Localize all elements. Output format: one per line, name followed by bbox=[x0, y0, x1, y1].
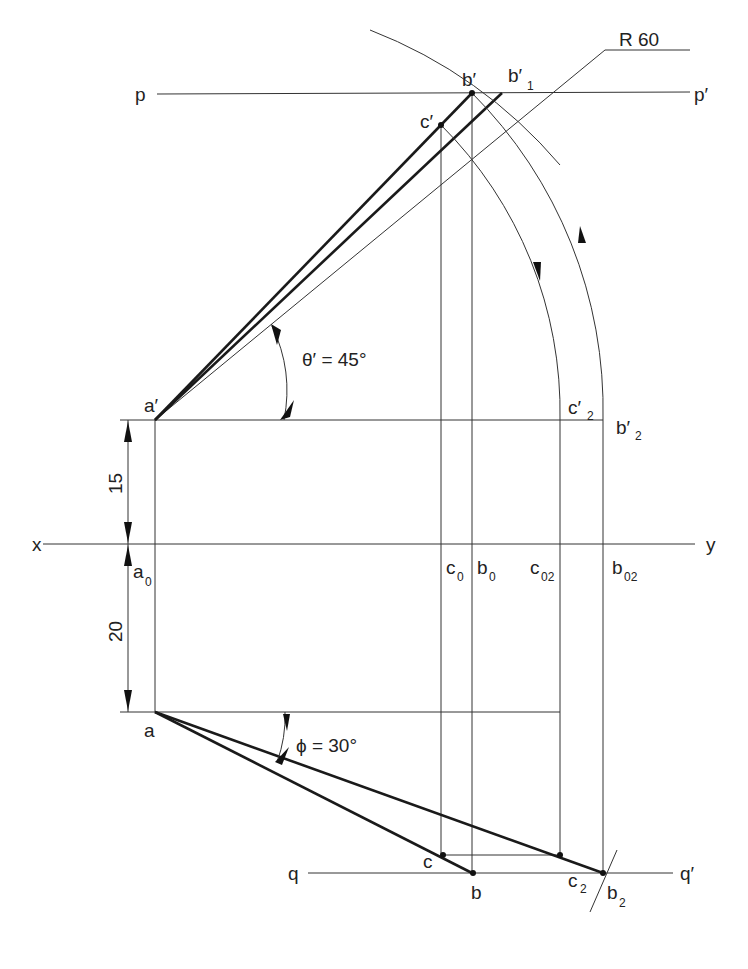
label-c: c bbox=[423, 851, 433, 872]
label-a-prime: a′ bbox=[144, 395, 159, 416]
arc-r60 bbox=[370, 30, 560, 165]
label-c0: c bbox=[446, 557, 456, 578]
line-a-b2 bbox=[155, 712, 603, 873]
line-a-prime-b-prime bbox=[155, 93, 472, 420]
label-q: q bbox=[288, 863, 299, 884]
label-c-prime: c′ bbox=[420, 111, 434, 132]
point-b-prime bbox=[469, 90, 475, 96]
label-b-prime: b′ bbox=[462, 69, 477, 90]
label-r60: R 60 bbox=[619, 29, 659, 50]
point-c bbox=[440, 852, 446, 858]
point-b bbox=[470, 870, 476, 876]
label-x: x bbox=[32, 534, 42, 555]
dim-15-arrow-top bbox=[124, 421, 132, 442]
theta-arc bbox=[272, 326, 287, 420]
projection-diagram: p p′ q q′ x y b′ b′ 1 c′ R 60 θ′ = 45° a… bbox=[0, 0, 748, 969]
pp-line bbox=[157, 92, 690, 94]
label-phi: ϕ = 30° bbox=[296, 735, 357, 756]
label-c2-sub: 2 bbox=[580, 882, 587, 896]
label-c02: c bbox=[530, 557, 540, 578]
arc-b-arrow bbox=[578, 226, 586, 243]
label-b2: b bbox=[607, 882, 618, 903]
label-c2: c bbox=[568, 870, 578, 891]
label-b-prime-1: b′ bbox=[508, 65, 523, 86]
label-b-prime-2: b′ bbox=[616, 417, 631, 438]
label-c02-sub: 02 bbox=[541, 570, 555, 584]
label-b-prime-2-sub: 2 bbox=[635, 429, 642, 443]
arc-c-prime bbox=[441, 125, 560, 420]
label-dim-15: 15 bbox=[105, 473, 126, 494]
line-a-prime-b-prime-1 bbox=[155, 93, 502, 420]
label-a0-sub: 0 bbox=[145, 575, 152, 589]
theta-arrow-bottom bbox=[280, 400, 294, 420]
label-y: y bbox=[706, 534, 716, 555]
label-c0-sub: 0 bbox=[457, 570, 464, 584]
label-b: b bbox=[471, 882, 482, 903]
label-dim-20: 20 bbox=[105, 621, 126, 642]
label-b02-sub: 02 bbox=[624, 570, 638, 584]
point-c2 bbox=[557, 852, 563, 858]
point-b2 bbox=[600, 870, 606, 876]
label-b2-sub: 2 bbox=[619, 896, 626, 910]
theta-arrow-top bbox=[271, 324, 281, 345]
label-b02: b bbox=[612, 557, 623, 578]
label-a: a bbox=[144, 720, 155, 741]
label-theta: θ′ = 45° bbox=[302, 349, 367, 370]
label-c-prime-2: c′ bbox=[568, 397, 582, 418]
label-b-prime-1-sub: 1 bbox=[527, 79, 534, 93]
r60-leader bbox=[155, 50, 690, 420]
dim-15-arrow-bottom bbox=[124, 522, 132, 543]
label-p: p bbox=[135, 84, 146, 105]
point-c-prime bbox=[438, 122, 444, 128]
label-a0: a bbox=[133, 561, 144, 582]
label-c-prime-2-sub: 2 bbox=[587, 409, 594, 423]
label-q-prime: q′ bbox=[680, 863, 695, 884]
arc-b-prime bbox=[472, 93, 603, 420]
dim-20-arrow-top bbox=[124, 545, 132, 566]
label-b0-sub: 0 bbox=[489, 570, 496, 584]
dim-20-arrow-bottom bbox=[124, 690, 132, 711]
phi-arrow-top bbox=[283, 714, 290, 731]
label-p-prime: p′ bbox=[694, 84, 709, 105]
label-b0: b bbox=[477, 557, 488, 578]
